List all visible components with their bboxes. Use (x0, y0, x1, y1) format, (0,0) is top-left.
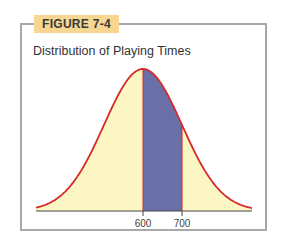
normal-distribution-chart: 600 700 (0, 0, 284, 244)
shaded-region-600-700 (143, 69, 182, 211)
x-tick-label-700: 700 (174, 218, 191, 229)
x-tick-label-600: 600 (135, 218, 152, 229)
